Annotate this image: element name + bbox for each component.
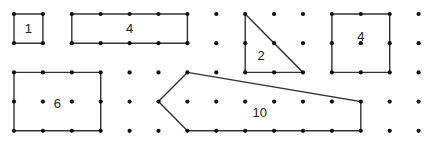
grid-dot [70,70,74,74]
grid-dot [272,41,276,45]
geoboard-figure: 1424610 [0,0,430,147]
grid-dot [12,100,16,104]
grid-dot [214,100,218,104]
grid-dot [417,129,421,133]
grid-dot [214,12,218,16]
dot-grid-diagram: 1424610 [0,0,430,147]
grid-dot [156,12,160,16]
grid-dot [128,70,132,74]
grid-dot [185,12,189,16]
grid-dot [128,100,132,104]
grid-dot [214,70,218,74]
grid-dot [41,12,45,16]
grid-dot [388,129,392,133]
grid-dot [41,129,45,133]
grid-dot [99,12,103,16]
grid-dot [99,100,103,104]
grid-dot [70,100,74,104]
grid-dot [359,100,363,104]
grid-dot [99,70,103,74]
grid-dot [185,129,189,133]
grid-dot [243,129,247,133]
grid-dot [359,41,363,45]
grid-dot [128,12,132,16]
grid-dot [41,70,45,74]
grid-dot [156,41,160,45]
grid-dot [417,100,421,104]
grid-dot [243,12,247,16]
grid-dot [12,129,16,133]
grid-dot [417,41,421,45]
grid-dot [214,41,218,45]
grid-dot [156,129,160,133]
grid-dot [417,12,421,16]
grid-dot [185,70,189,74]
grid-dot [272,100,276,104]
grid-dot [301,100,305,104]
grid-dot [185,100,189,104]
grid-dot [301,41,305,45]
grid-dot [272,12,276,16]
grid-dot [388,100,392,104]
grid-dot [128,41,132,45]
grid-dot [272,70,276,74]
grid-dot [41,41,45,45]
grid-dot [243,100,247,104]
triangle-2-area-label: 2 [257,48,264,63]
grid-dot [417,70,421,74]
grid-dot [330,70,334,74]
grid-dot [70,129,74,133]
grid-dot [156,70,160,74]
grid-dot [272,129,276,133]
grid-dot [359,12,363,16]
grid-dot [99,41,103,45]
grid-dot [301,129,305,133]
grid-dot [99,129,103,133]
grid-dot [41,100,45,104]
grid-dot [301,12,305,16]
grid-dot [330,41,334,45]
grid-dot [359,129,363,133]
grid-dot [70,12,74,16]
grid-dot [70,41,74,45]
square-1-area-label: 1 [25,21,32,36]
grid-dot [128,129,132,133]
grid-dot [359,70,363,74]
grid-dot [388,12,392,16]
grid-dot [243,70,247,74]
pentagon-10-area-label: 10 [252,105,266,120]
grid-dot [12,41,16,45]
grid-dot [388,41,392,45]
grid-dot [214,129,218,133]
grid-dot [12,70,16,74]
grid-dot [330,12,334,16]
grid-dot [185,41,189,45]
grid-dot [12,12,16,16]
grid-dot [301,70,305,74]
grid-dot [243,41,247,45]
rectangle-4-area-label: 4 [126,21,133,36]
grid-dot [330,129,334,133]
grid-dot [330,100,334,104]
grid-dot [388,70,392,74]
rectangle-6-area-label: 6 [54,96,61,111]
grid-dot [156,100,160,104]
